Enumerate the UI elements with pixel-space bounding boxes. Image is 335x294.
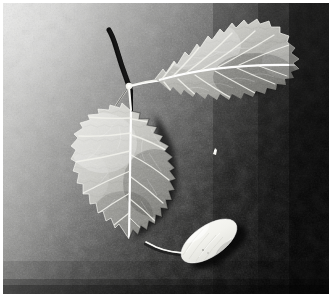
bottom-vignette <box>3 285 329 294</box>
right-vignette <box>289 3 329 294</box>
photograph-frame <box>0 0 335 294</box>
photograph-stage <box>3 3 329 294</box>
photograph-image <box>3 3 329 294</box>
film-grain-overlay <box>3 3 329 294</box>
